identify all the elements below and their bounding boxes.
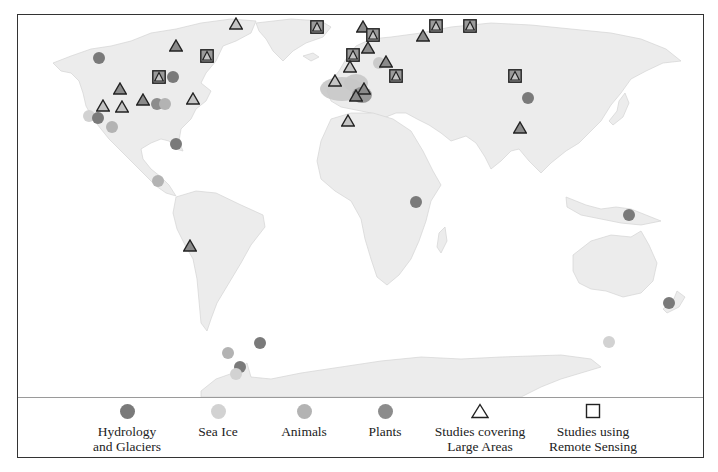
animals-marker-icon [152, 175, 164, 187]
hydrology-marker-icon [410, 196, 422, 208]
hydrology-marker-icon [623, 209, 635, 221]
hydrology-marker-icon [92, 112, 104, 124]
antarctica-landmass [201, 355, 601, 397]
animals-marker-icon [222, 347, 234, 359]
hydrology-marker-icon [663, 297, 675, 309]
hydrology-circle-icon [120, 404, 135, 419]
map-canvas [18, 15, 703, 397]
legend-item-remote-sensing: Studies using Remote Sensing [528, 398, 658, 454]
legend-item-large-areas: Studies covering Large Areas [415, 398, 545, 454]
hydrology-marker-icon [522, 92, 534, 104]
sea-ice-marker-icon [603, 336, 615, 348]
hydrology-marker-icon [254, 337, 266, 349]
animals-circle-icon [297, 404, 312, 419]
iceland-landmass [303, 53, 319, 61]
hydrology-marker-icon [167, 71, 179, 83]
sea-ice-marker-icon [230, 368, 242, 380]
animals-marker-icon [106, 121, 118, 133]
hydrology-marker-icon [170, 138, 182, 150]
plants-circle-icon [378, 404, 393, 419]
south-america-landmass [173, 191, 265, 331]
madagascar-landmass [437, 227, 447, 253]
animals-marker-icon [159, 98, 171, 110]
southeast-asia-islands [566, 197, 661, 225]
legend-label: Studies using Remote Sensing [528, 424, 658, 454]
square-icon [585, 403, 601, 419]
legend: Hydrology and Glaciers Sea Ice Animals P… [18, 398, 703, 458]
legend-label: Studies covering Large Areas [415, 424, 545, 454]
africa-landmass [317, 113, 441, 285]
australia-landmass [573, 231, 657, 297]
sea-ice-circle-icon [211, 404, 226, 419]
triangle-icon [471, 403, 489, 419]
hydrology-marker-icon [93, 52, 105, 64]
figure-frame: Hydrology and Glaciers Sea Ice Animals P… [17, 14, 704, 458]
world-map [18, 15, 703, 398]
